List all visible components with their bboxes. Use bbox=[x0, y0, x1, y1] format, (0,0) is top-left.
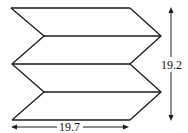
right-zigzag-edge bbox=[130, 8, 161, 120]
height-label: 19.2 bbox=[161, 58, 182, 72]
width-label: 19.7 bbox=[59, 120, 80, 133]
zigzag-diagram: 19.2 19.7 bbox=[0, 0, 188, 133]
